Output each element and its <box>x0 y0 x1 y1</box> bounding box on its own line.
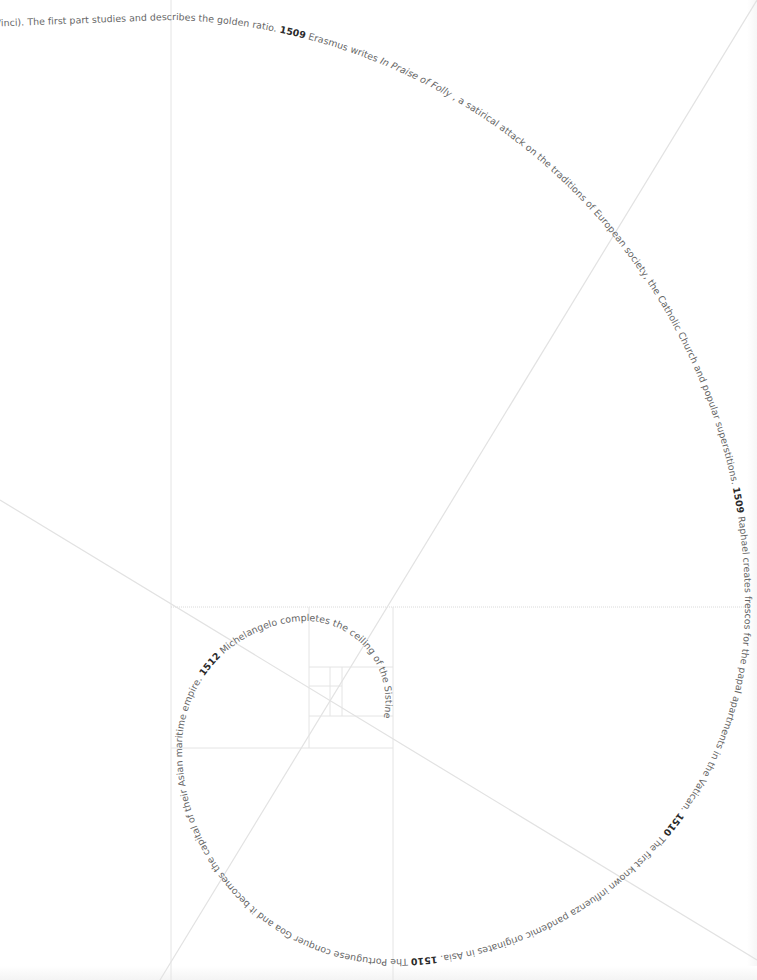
event-text: Michelangelo completes the ceiling of th… <box>0 0 394 720</box>
event-year: 1510 <box>410 954 438 967</box>
event-text: The Portuguese conquer Goa and it become… <box>173 674 409 968</box>
event-text: Raphael creates frescos for the papal ap… <box>679 515 754 814</box>
event-text: , describing medicinal herbs and the con… <box>0 0 5 2</box>
event-text: , a satirical attack on the traditions o… <box>451 91 741 485</box>
spiral-timeline-text: da Vinci). The first part studies and de… <box>0 0 754 968</box>
event-title: Big Book of Distillation <box>0 0 4 2</box>
event-year: 1510 <box>661 811 686 839</box>
event-year: 1512 <box>197 650 223 678</box>
event-year: 1509 <box>731 486 747 514</box>
intro-fragment: da Vinci). The first part studies and de… <box>0 11 278 34</box>
event-year: 1512 <box>0 0 3 2</box>
spiral-diagonals <box>0 0 757 980</box>
event-title: In Praise of Folly <box>379 55 455 99</box>
event-text: Hieronymus Brunschwig publishes <box>0 0 5 2</box>
event-text: The first known influenza pandemic origi… <box>440 833 669 965</box>
diagonal-descending <box>0 500 757 960</box>
event-text: Erasmus writes <box>307 31 383 65</box>
event-year: 1509 <box>279 24 307 41</box>
golden-spiral-diagram: da Vinci). The first part studies and de… <box>0 0 757 980</box>
